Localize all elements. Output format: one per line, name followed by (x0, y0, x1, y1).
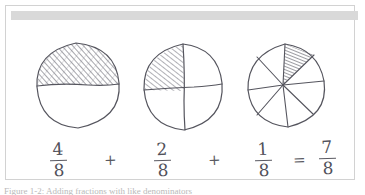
equals-operator: = (293, 151, 306, 169)
plus-operator-2: + (208, 151, 221, 169)
circle-diagram-two-eighths (134, 35, 230, 137)
header-band (11, 11, 358, 20)
fraction-two-eighths: 2 8 (154, 141, 171, 180)
figure-card: 4 8 + 2 8 + 1 8 (5, 5, 355, 180)
numerator: 1 (254, 141, 272, 160)
numerator: 4 (49, 141, 67, 160)
circle-diagram-four-eighths (30, 35, 126, 137)
plus-operator-1: + (104, 151, 117, 169)
numerator: 7 (318, 139, 336, 158)
figure-caption: Figure 1-2: Adding fractions with like d… (4, 185, 254, 195)
denominator: 8 (255, 162, 273, 180)
fraction-four-eighths: 4 8 (50, 141, 67, 180)
shaded-region (238, 35, 334, 137)
circle-diagram-one-eighth (238, 35, 334, 137)
shaded-region (134, 35, 230, 137)
denominator: 8 (154, 162, 172, 180)
denominator: 8 (319, 160, 337, 178)
denominator: 8 (50, 162, 68, 180)
numerator: 2 (153, 141, 171, 160)
hand-drawn-diagram-area: 4 8 + 2 8 + 1 8 (12, 21, 360, 185)
handwritten-equation: 4 8 + 2 8 + 1 8 (12, 137, 360, 185)
fraction-seven-eighths: 7 8 (319, 139, 336, 178)
shaded-region (30, 35, 126, 137)
fraction-one-eighth: 1 8 (255, 141, 272, 180)
